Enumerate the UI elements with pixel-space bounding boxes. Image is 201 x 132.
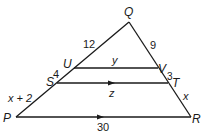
label-qv: 9 — [150, 39, 156, 51]
vertex-label-q: Q — [124, 5, 133, 19]
parallel-arrow-st — [108, 81, 115, 86]
label-vt: 3 — [167, 71, 173, 82]
vertex-label-p: P — [3, 111, 11, 125]
triangle-diagram: Q P R U S V T 12 4 x + 2 9 3 x y z 30 — [0, 0, 201, 132]
parallel-arrow-pr — [97, 115, 104, 120]
vertex-label-u: U — [63, 57, 72, 71]
vertex-label-t: T — [172, 76, 181, 90]
vertex-label-v: V — [158, 62, 167, 76]
label-pr: 30 — [97, 121, 109, 132]
label-qu: 12 — [83, 38, 95, 50]
label-us: 4 — [53, 68, 59, 80]
label-sp: x + 2 — [7, 92, 32, 104]
label-st: z — [108, 87, 115, 99]
label-tr: x — [182, 90, 189, 102]
label-uv: y — [111, 54, 119, 66]
vertex-label-r: R — [192, 112, 201, 126]
side-pq — [16, 22, 129, 117]
